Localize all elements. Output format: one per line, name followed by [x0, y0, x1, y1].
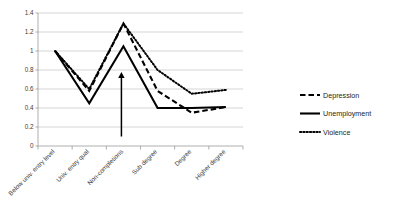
x-category-label: Degree	[173, 147, 194, 168]
series-line-depression	[55, 23, 226, 112]
x-category-label: Univ. entry qual	[54, 148, 90, 184]
y-axis-tick-marks	[36, 13, 39, 146]
x-category-label: Below univ. entry level	[7, 148, 57, 198]
y-tick-label: 1.4	[25, 9, 34, 16]
x-category-label: Non-completions	[86, 148, 125, 187]
chart-legend: DepressionUnemploymentViolence	[300, 91, 371, 137]
y-tick-label: 0.6	[25, 85, 34, 92]
y-tick-label: 1	[30, 47, 34, 54]
legend-label-unemployment: Unemployment	[323, 109, 371, 118]
legend-label-depression: Depression	[323, 91, 359, 100]
x-axis-tick-marks	[38, 146, 243, 150]
y-tick-label: 1.2	[25, 28, 34, 35]
y-tick-label: 0	[30, 142, 34, 149]
chart-container: 00.20.40.60.811.21.4 Below univ. entry l…	[0, 0, 405, 219]
series-line-violence	[55, 23, 226, 93]
y-tick-label: 0.4	[25, 104, 34, 111]
x-category-label: Sub degree	[130, 147, 159, 176]
non-completions-arrow-head	[118, 72, 124, 78]
y-tick-label: 0.2	[25, 123, 34, 130]
line-chart: 00.20.40.60.811.21.4 Below univ. entry l…	[0, 0, 405, 219]
x-category-label: Higher degree	[193, 147, 227, 181]
y-axis-tick-labels: 00.20.40.60.811.21.4	[25, 9, 34, 149]
legend-label-violence: Violence	[323, 128, 350, 137]
series-lines	[55, 23, 226, 112]
x-axis-category-labels: Below univ. entry levelUniv. entry qualN…	[7, 147, 228, 197]
y-tick-label: 0.8	[25, 66, 34, 73]
